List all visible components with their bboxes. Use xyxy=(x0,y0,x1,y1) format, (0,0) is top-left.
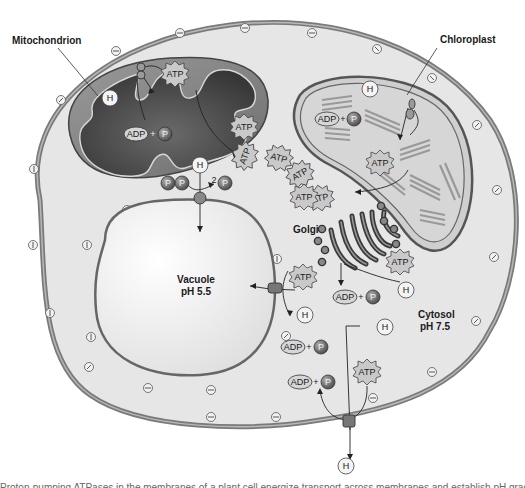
vacuole-ph-label: pH 5.5 xyxy=(181,286,211,297)
svg-text:P: P xyxy=(222,178,228,188)
golgi-label: Golgi xyxy=(293,224,319,235)
svg-text:ATP: ATP xyxy=(167,69,184,79)
svg-text:P: P xyxy=(179,178,185,188)
svg-text:ADP: ADP xyxy=(318,114,337,124)
chloroplast-label: Chloroplast xyxy=(440,34,496,45)
svg-text:H: H xyxy=(197,160,204,170)
svg-text:P: P xyxy=(165,178,171,188)
svg-text:P: P xyxy=(162,129,168,139)
svg-text:2: 2 xyxy=(211,175,216,185)
svg-text:P: P xyxy=(351,114,357,124)
cytosol-label: Cytosol xyxy=(418,309,455,320)
vacuole: Vacuole pH 5.5 xyxy=(95,199,275,375)
cell-diagram: Vacuole pH 5.5 Golgi xyxy=(0,0,525,488)
vacuole-label: Vacuole xyxy=(177,274,215,285)
mitochondrion-label: Mitochondrion xyxy=(12,35,81,46)
svg-text:ADP: ADP xyxy=(127,129,146,139)
svg-text:ADP: ADP xyxy=(284,342,303,352)
svg-text:H: H xyxy=(403,285,410,295)
svg-text:ADP: ADP xyxy=(336,292,355,302)
svg-text:+: + xyxy=(150,129,155,139)
svg-text:H: H xyxy=(367,84,374,94)
svg-text:+: + xyxy=(340,114,345,124)
svg-text:ATP: ATP xyxy=(359,367,376,377)
svg-text:H: H xyxy=(382,322,389,332)
svg-text:ATP: ATP xyxy=(295,272,312,282)
svg-text:ATP: ATP xyxy=(236,122,253,132)
svg-text:ATP: ATP xyxy=(372,158,389,168)
svg-text:P: P xyxy=(318,342,324,352)
svg-text:+: + xyxy=(306,342,311,352)
svg-text:H: H xyxy=(302,310,309,320)
svg-text:ADP: ADP xyxy=(291,377,310,387)
svg-text:P: P xyxy=(325,377,331,387)
cytosol-ph-label: pH 7.5 xyxy=(420,321,450,332)
svg-text:P: P xyxy=(370,292,376,302)
figure-caption: Proton-pumping ATPases in the membranes … xyxy=(0,480,525,488)
svg-text:ATP: ATP xyxy=(296,192,313,202)
svg-text:+: + xyxy=(313,377,318,387)
svg-text:+: + xyxy=(358,292,363,302)
svg-text:H: H xyxy=(343,461,350,471)
svg-text:H: H xyxy=(107,93,114,103)
svg-text:ATP: ATP xyxy=(392,257,409,267)
